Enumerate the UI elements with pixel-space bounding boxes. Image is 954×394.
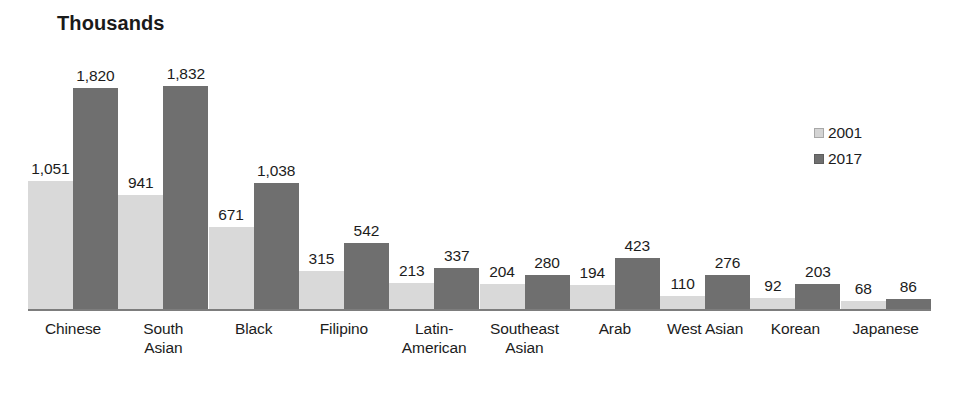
bar-2001-arab [570,285,615,309]
bar-value-label: 423 [603,237,672,255]
bar-2017-black [254,183,299,309]
legend-swatch-icon [814,154,824,164]
bar-2001-japanese [841,301,886,309]
bar-2001-west-asian [660,296,705,309]
bar-2001-black [209,227,254,309]
bar-2001-south-asian [118,195,163,309]
plot-area: 1,0511,8209411,8326711,03831554221333720… [0,0,954,394]
legend-item-2001[interactable]: 2001 [814,120,924,146]
bar-2001-latin-american [389,283,434,309]
legend-label: 2001 [828,124,862,142]
bar-2017-japanese [886,299,931,309]
bar-2017-chinese [73,88,118,309]
x-axis-line [28,309,931,311]
bar-value-label: 1,820 [61,67,130,85]
category-label-japanese: Japanese [823,319,949,338]
bar-value-label: 276 [693,254,762,272]
legend-swatch-icon [814,128,824,138]
bar-value-label: 86 [874,278,943,296]
legend-label: 2017 [828,150,862,168]
legend-item-2017[interactable]: 2017 [814,146,924,172]
bar-value-label: 542 [332,222,401,240]
bar-2001-korean [750,298,795,309]
category-label-line: Japanese [823,319,949,338]
bar-2001-filipino [299,271,344,309]
bar-value-label: 203 [783,263,852,281]
chart-legend: 20012017 [814,120,924,172]
category-label-line: Asian [462,338,588,357]
bar-2001-southeast-asian [480,284,525,309]
bar-2017-south-asian [163,86,208,309]
bar-value-label: 1,832 [151,65,220,83]
bar-chart: Thousands 1,0511,8209411,8326711,0383155… [0,0,954,394]
category-label-line: Asian [100,338,226,357]
bar-2001-chinese [28,181,73,309]
bar-value-label: 1,038 [242,162,311,180]
